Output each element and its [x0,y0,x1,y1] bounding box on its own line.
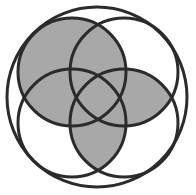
diagram-canvas [0,0,196,195]
venn-diagram [0,0,196,195]
